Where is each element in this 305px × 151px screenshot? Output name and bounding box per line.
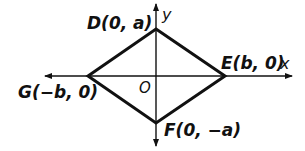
- coordinate-diagram: y x O D(0, a) E(b, 0) F(0, −a) G(−b, 0): [0, 0, 305, 151]
- y-axis-label: y: [161, 5, 172, 24]
- vertex-label-G: G(−b, 0): [18, 82, 98, 102]
- vertex-label-F: F(0, −a): [164, 120, 241, 140]
- vertex-label-D: D(0, a): [87, 13, 152, 33]
- origin-label: O: [139, 79, 151, 97]
- vertex-label-E: E(b, 0): [221, 53, 285, 73]
